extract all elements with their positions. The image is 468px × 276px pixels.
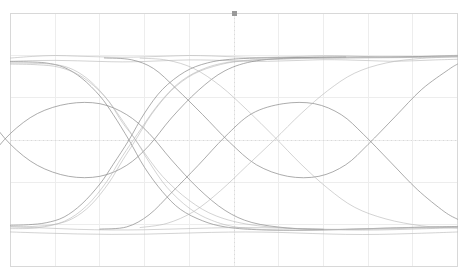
eye-plot-canvas[interactable]	[0, 0, 468, 276]
trigger-marker-layer	[232, 11, 237, 16]
top-center-trigger-marker-icon[interactable]	[232, 11, 237, 16]
eye-diagram-chart: Eye Diagram Oscilloscope eye diagram: ma…	[0, 0, 468, 276]
